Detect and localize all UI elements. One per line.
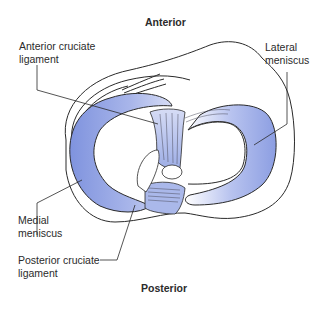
orientation-anterior: Anterior [145,16,186,28]
label-lateral-meniscus: Lateral meniscus [265,41,309,66]
label-posterior-cruciate-ligament: Posterior cruciate ligament [18,254,100,279]
tibial-spine [162,165,182,179]
label-medial-meniscus: Medial meniscus [18,214,62,239]
lateral-meniscus-inner [188,122,245,184]
knee-meniscus-diagram: Anterior Posterior Anterior cruciate lig… [0,0,327,311]
pcl-leader-line [100,205,135,260]
label-anterior-cruciate-ligament: Anterior cruciate ligament [19,40,95,65]
orientation-posterior: Posterior [141,282,187,294]
